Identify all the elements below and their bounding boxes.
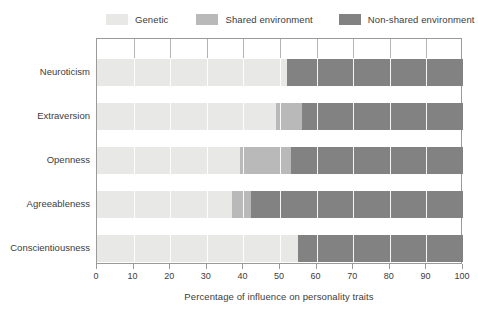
legend-item-genetic: Genetic <box>106 14 168 25</box>
x-tick-label: 70 <box>347 271 357 281</box>
gridline <box>426 147 427 174</box>
gridline <box>170 147 171 174</box>
chart-legend: GeneticShared environmentNon-shared envi… <box>96 10 462 28</box>
bar-row <box>97 191 463 218</box>
gridline <box>390 103 391 130</box>
gridline <box>243 147 244 174</box>
plot-area <box>96 38 462 264</box>
x-tick-mark <box>279 264 280 269</box>
x-tick-label: 10 <box>128 271 138 281</box>
legend-label: Shared environment <box>225 14 312 25</box>
bar-segment <box>97 147 240 174</box>
bar-segment <box>97 59 287 86</box>
x-tick-label: 20 <box>164 271 174 281</box>
top-tick-mark <box>170 39 171 58</box>
gridline <box>207 147 208 174</box>
bar-segment <box>240 147 291 174</box>
x-tick-mark <box>242 264 243 269</box>
x-tick-label: 0 <box>93 271 98 281</box>
top-tick-mark <box>243 39 244 58</box>
x-tick-label: 60 <box>311 271 321 281</box>
gridline <box>463 235 464 262</box>
bar-row <box>97 235 463 262</box>
gridline <box>207 191 208 218</box>
gridline <box>390 59 391 86</box>
gridline <box>134 191 135 218</box>
x-tick-mark <box>96 264 97 269</box>
gridline <box>207 103 208 130</box>
top-tick-mark <box>426 39 427 58</box>
legend-label: Genetic <box>135 14 168 25</box>
gridline <box>317 147 318 174</box>
x-tick-mark <box>462 264 463 269</box>
x-tick-mark <box>206 264 207 269</box>
gridline <box>134 147 135 174</box>
y-tick-label: Extraversion <box>0 110 90 122</box>
x-tick-label: 30 <box>201 271 211 281</box>
gridline <box>207 235 208 262</box>
gridline <box>243 103 244 130</box>
y-axis-labels: NeuroticismExtraversionOpennessAgreeable… <box>0 38 90 264</box>
gridline <box>280 147 281 174</box>
gridline <box>426 59 427 86</box>
top-tick-mark <box>317 39 318 58</box>
x-tick-mark <box>425 264 426 269</box>
gridline <box>243 235 244 262</box>
gridline <box>170 59 171 86</box>
legend-swatch-icon <box>106 14 128 25</box>
x-tick-label: 40 <box>237 271 247 281</box>
bar-segment <box>302 103 463 130</box>
bar-row <box>97 103 463 130</box>
x-tick-mark <box>316 264 317 269</box>
gridline <box>280 235 281 262</box>
top-tick-mark <box>390 39 391 58</box>
x-tick-label: 90 <box>420 271 430 281</box>
x-axis-title: Percentage of influence on personality t… <box>96 291 462 302</box>
legend-item-shared-environment: Shared environment <box>196 14 312 25</box>
bar-segment <box>97 191 232 218</box>
top-tick-mark <box>280 39 281 58</box>
gridline <box>134 103 135 130</box>
gridline <box>390 147 391 174</box>
y-tick-label: Conscientiousness <box>0 242 90 254</box>
gridline <box>390 235 391 262</box>
gridline <box>353 191 354 218</box>
top-tick-mark <box>353 39 354 58</box>
x-tick-mark <box>169 264 170 269</box>
gridline <box>280 103 281 130</box>
top-tick-mark <box>134 39 135 58</box>
gridline <box>280 191 281 218</box>
y-tick-label: Neuroticism <box>0 66 90 78</box>
gridline <box>317 235 318 262</box>
bar-row <box>97 147 463 174</box>
legend-swatch-icon <box>196 14 218 25</box>
top-tick-mark <box>207 39 208 58</box>
bar-segment <box>97 235 298 262</box>
x-tick-label: 100 <box>454 271 469 281</box>
x-tick-label: 80 <box>384 271 394 281</box>
gridline <box>243 191 244 218</box>
gridline <box>317 103 318 130</box>
gridline <box>243 59 244 86</box>
legend-item-non-shared-environment: Non-shared environment <box>339 14 475 25</box>
legend-label: Non-shared environment <box>368 14 475 25</box>
gridline <box>170 235 171 262</box>
gridline <box>317 59 318 86</box>
gridline <box>426 103 427 130</box>
gridline <box>463 191 464 218</box>
gridline <box>463 59 464 86</box>
bar-segment <box>232 191 250 218</box>
gridline <box>353 59 354 86</box>
x-tick-label: 50 <box>274 271 284 281</box>
gridline <box>280 59 281 86</box>
gridline <box>390 191 391 218</box>
gridline <box>426 235 427 262</box>
stacked-bar-chart-figure: GeneticShared environmentNon-shared envi… <box>0 0 478 315</box>
y-tick-label: Agreeableness <box>0 198 90 210</box>
gridline <box>134 59 135 86</box>
bar-segment <box>287 59 463 86</box>
gridline <box>317 191 318 218</box>
x-axis: 0102030405060708090100 <box>96 264 462 294</box>
gridline <box>426 191 427 218</box>
gridline <box>207 59 208 86</box>
